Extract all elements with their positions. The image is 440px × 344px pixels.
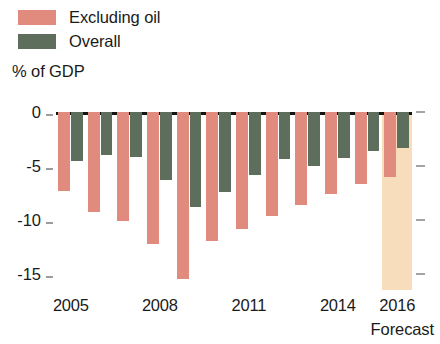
bar-overall — [279, 112, 291, 159]
bar-overall — [308, 112, 320, 166]
bar-excluding-oil — [88, 112, 100, 212]
bar-overall — [249, 112, 261, 175]
x-axis-tick-label: 2016 — [379, 296, 415, 315]
bar-group — [56, 112, 86, 290]
bar-group — [145, 112, 175, 290]
bar-excluding-oil — [295, 112, 307, 205]
bar-overall — [338, 112, 350, 158]
y-axis-tick-label: -10 — [7, 210, 56, 229]
right-axis-tick — [416, 165, 425, 166]
bar-container — [56, 112, 412, 290]
legend-item-overall: Overall — [18, 30, 160, 52]
right-axis-tick — [416, 273, 425, 274]
bar-overall — [71, 112, 83, 161]
forecast-annotation: Forecast — [371, 320, 434, 339]
legend-label-overall: Overall — [69, 33, 121, 50]
bar-excluding-oil — [117, 112, 129, 221]
bar-group — [323, 112, 353, 290]
bar-group — [293, 112, 323, 290]
x-axis-labels: 20052008201120142016 — [56, 296, 412, 320]
legend-swatch-overall — [18, 34, 56, 49]
bar-overall — [368, 112, 380, 151]
right-axis-tick — [416, 112, 425, 113]
bar-overall — [397, 112, 409, 148]
bar-excluding-oil — [266, 112, 278, 216]
x-axis-tick-label: 2014 — [320, 296, 356, 315]
y-axis-tick-label: -15 — [7, 264, 56, 283]
bar-excluding-oil — [58, 112, 70, 191]
bar-group — [234, 112, 264, 290]
bar-overall — [101, 112, 113, 155]
bar-overall — [190, 112, 202, 207]
bar-overall — [160, 112, 172, 180]
bar-overall — [130, 112, 142, 157]
bar-group — [382, 112, 412, 290]
bar-excluding-oil — [206, 112, 218, 241]
bar-excluding-oil — [355, 112, 367, 184]
y-axis-tick-label: -5 — [7, 156, 56, 175]
bar-group — [115, 112, 145, 290]
bar-excluding-oil — [236, 112, 248, 229]
legend-swatch-excluding-oil — [18, 10, 56, 25]
x-axis-tick-label: 2005 — [53, 296, 89, 315]
bar-excluding-oil — [325, 112, 337, 194]
chart-legend: Excluding oil Overall — [18, 6, 160, 54]
legend-label-excluding-oil: Excluding oil — [69, 9, 160, 26]
bar-group — [175, 112, 205, 290]
bar-group — [353, 112, 383, 290]
bar-group — [86, 112, 116, 290]
bar-excluding-oil — [147, 112, 159, 244]
bar-excluding-oil — [177, 112, 189, 279]
legend-item-excluding-oil: Excluding oil — [18, 6, 160, 28]
bar-excluding-oil — [384, 112, 396, 177]
fiscal-balance-bar-chart: Excluding oil Overall % of GDP 0-5-10-15… — [0, 0, 440, 344]
x-axis-tick-label: 2008 — [142, 296, 178, 315]
right-axis-tick — [416, 219, 425, 220]
bar-group — [264, 112, 294, 290]
x-axis-tick-label: 2011 — [231, 296, 266, 315]
bar-group — [204, 112, 234, 290]
plot-area: 0-5-10-15 — [56, 60, 412, 290]
bar-overall — [219, 112, 231, 192]
y-axis-tick-label: 0 — [7, 103, 56, 122]
